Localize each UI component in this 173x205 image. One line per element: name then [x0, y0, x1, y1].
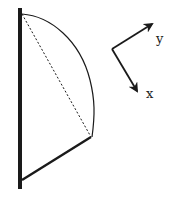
- x-axis-label: x: [146, 86, 154, 101]
- y-axis-label: y: [155, 31, 164, 46]
- chord-dashed-line: [22, 14, 91, 137]
- diagram-canvas: y x: [0, 0, 173, 205]
- wall: [18, 8, 22, 189]
- x-axis-arrow-icon: [112, 49, 137, 91]
- y-axis-arrow-icon: [112, 24, 152, 49]
- coordinate-axes: y x: [112, 24, 164, 101]
- bottom-edge: [22, 137, 91, 180]
